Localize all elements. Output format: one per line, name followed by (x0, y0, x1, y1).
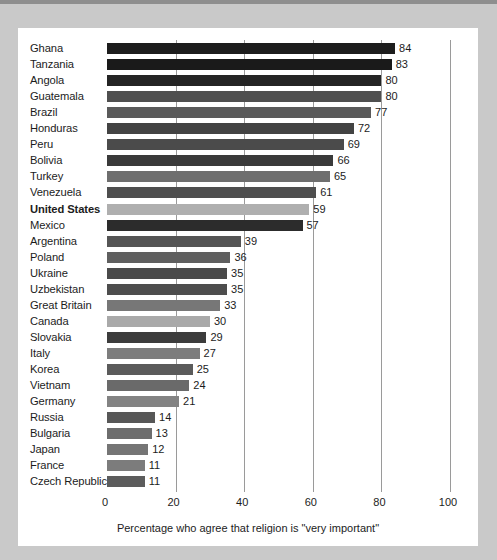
bar (107, 187, 316, 198)
chart-row: Tanzania83 (18, 57, 478, 73)
bar-value-label: 72 (358, 121, 370, 136)
chart-row: Guatemala80 (18, 89, 478, 105)
bar-value-label: 21 (183, 394, 195, 409)
x-tick-label: 0 (85, 496, 125, 508)
bar (107, 444, 148, 455)
chart-row: Uzbekistan35 (18, 282, 478, 298)
bar-value-label: 12 (152, 442, 164, 457)
chart-row: Angola80 (18, 73, 478, 89)
bar (107, 91, 381, 102)
chart-row: Italy27 (18, 346, 478, 362)
category-label: Japan (30, 442, 104, 457)
chart-row: Poland36 (18, 250, 478, 266)
chart-row: United States59 (18, 202, 478, 218)
bar-value-label: 84 (399, 41, 411, 56)
bar (107, 43, 395, 54)
bar (107, 348, 200, 359)
bar-value-label: 39 (245, 234, 257, 249)
bar (107, 476, 145, 487)
bar (107, 268, 227, 279)
chart-row: Japan12 (18, 442, 478, 458)
bar-value-label: 11 (149, 474, 160, 489)
bar (107, 59, 392, 70)
category-label: Bolivia (30, 153, 104, 168)
bar (107, 252, 230, 263)
category-label: France (30, 458, 104, 473)
category-label: Germany (30, 394, 104, 409)
bar-value-label: 57 (307, 218, 319, 233)
bar-value-label: 11 (149, 458, 160, 473)
chart-row: Bolivia66 (18, 153, 478, 169)
bar (107, 139, 344, 150)
x-tick-label: 20 (154, 496, 194, 508)
chart-row: Brazil77 (18, 105, 478, 121)
chart-row: Venezuela61 (18, 185, 478, 201)
bar-value-label: 35 (231, 266, 243, 281)
category-label: Angola (30, 73, 104, 88)
bar-value-label: 30 (214, 314, 226, 329)
bar-value-label: 65 (334, 169, 346, 184)
category-label: Venezuela (30, 185, 104, 200)
chart-row: Bulgaria13 (18, 426, 478, 442)
bar (107, 300, 220, 311)
bar (107, 155, 333, 166)
chart-row: Turkey65 (18, 169, 478, 185)
x-tick-label: 60 (291, 496, 331, 508)
bar-value-label: 59 (313, 202, 325, 217)
bar (107, 412, 155, 423)
category-label: Mexico (30, 218, 104, 233)
bar (107, 316, 210, 327)
bar-chart: Ghana84Tanzania83Angola80Guatemala80Braz… (18, 28, 478, 546)
category-label: Guatemala (30, 89, 104, 104)
chart-row: Honduras72 (18, 121, 478, 137)
bar-value-label: 77 (375, 105, 387, 120)
bar-value-label: 33 (224, 298, 236, 313)
bar (107, 107, 371, 118)
chart-row: Argentina39 (18, 234, 478, 250)
category-label: Tanzania (30, 57, 104, 72)
bar-value-label: 66 (337, 153, 349, 168)
chart-row: Germany21 (18, 394, 478, 410)
category-label: United States (30, 202, 104, 217)
x-tick-label: 100 (428, 496, 468, 508)
category-label: Poland (30, 250, 104, 265)
category-label: Ukraine (30, 266, 104, 281)
chart-row: Czech Republic11 (18, 474, 478, 490)
category-label: Great Britain (30, 298, 104, 313)
category-label: Honduras (30, 121, 104, 136)
bar (107, 380, 189, 391)
category-label: Czech Republic (30, 474, 104, 489)
category-label: Slovakia (30, 330, 104, 345)
bar (107, 332, 206, 343)
chart-row: Great Britain33 (18, 298, 478, 314)
chart-row: Ghana84 (18, 41, 478, 57)
bar-value-label: 13 (156, 426, 168, 441)
category-label: Brazil (30, 105, 104, 120)
bar-value-label: 27 (204, 346, 216, 361)
bar-value-label: 83 (396, 57, 408, 72)
bar-value-label: 69 (348, 137, 360, 152)
chart-row: Vietnam24 (18, 378, 478, 394)
bar (107, 171, 330, 182)
chart-row: Ukraine35 (18, 266, 478, 282)
bar-value-label: 80 (385, 73, 397, 88)
category-label: Russia (30, 410, 104, 425)
category-label: Turkey (30, 169, 104, 184)
chart-row: Russia14 (18, 410, 478, 426)
bar-value-label: 14 (159, 410, 171, 425)
bar-value-label: 24 (193, 378, 205, 393)
chart-row: Peru69 (18, 137, 478, 153)
chart-row: Slovakia29 (18, 330, 478, 346)
chart-caption: Percentage who agree that religion is "v… (18, 522, 478, 534)
bar (107, 460, 145, 471)
chart-panel: Ghana84Tanzania83Angola80Guatemala80Braz… (18, 28, 478, 546)
category-label: Italy (30, 346, 104, 361)
bar (107, 204, 309, 215)
category-label: Bulgaria (30, 426, 104, 441)
bar (107, 123, 354, 134)
bar-value-label: 80 (385, 89, 397, 104)
category-label: Canada (30, 314, 104, 329)
category-label: Vietnam (30, 378, 104, 393)
chart-row: Korea25 (18, 362, 478, 378)
category-label: Korea (30, 362, 104, 377)
